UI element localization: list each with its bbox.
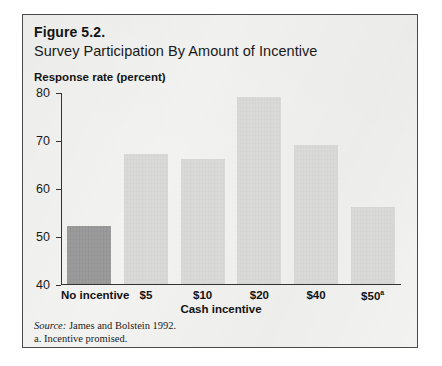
figure-number: Figure 5.2.: [34, 24, 105, 40]
figure-title: Survey Participation By Amount of Incent…: [34, 43, 317, 59]
x-label--20: $20: [231, 289, 288, 301]
bar-no-incentive: [67, 226, 111, 284]
bar--50: [351, 207, 395, 284]
source-label: Source:: [34, 320, 66, 331]
x-label--10: $10: [174, 289, 231, 301]
bar-fill: [124, 154, 168, 284]
figure-panel: Figure 5.2. Survey Participation By Amou…: [22, 14, 418, 348]
y-tick-label-70: 70: [36, 134, 50, 148]
bar--5: [124, 154, 168, 284]
y-tick-label-60: 60: [36, 182, 50, 196]
y-tick-70: 70: [56, 141, 61, 142]
bar-fill: [181, 159, 225, 284]
footnote-line: a. Incentive promised.: [34, 332, 176, 345]
y-axis-line: [61, 93, 62, 285]
y-tick-label-80: 80: [36, 86, 50, 100]
y-tick-60: 60: [56, 189, 61, 190]
x-axis-title: Cash incentive: [23, 303, 419, 315]
y-tick-80: 80: [56, 93, 61, 94]
x-label--50: $50a: [344, 289, 401, 302]
source-line: Source: James and Bolstein 1992.: [34, 319, 176, 332]
x-label-no-incentive: No incentive: [61, 289, 118, 301]
y-tick-label-40: 40: [36, 278, 50, 292]
y-tick-50: 50: [56, 237, 61, 238]
bar-fill: [294, 145, 338, 284]
bar-fill: [67, 226, 111, 284]
footnote-marker: a: [380, 289, 384, 296]
bar--10: [181, 159, 225, 284]
x-label--5: $5: [118, 289, 175, 301]
y-tick-40: 40: [56, 285, 61, 286]
source-note-block: Source: James and Bolstein 1992. a. Ince…: [34, 319, 176, 346]
bar-fill: [237, 97, 281, 284]
bar-chart-plot-area: 4050607080 No incentive$5$10$20$40$50a: [61, 93, 401, 285]
y-tick-label-50: 50: [36, 230, 50, 244]
bar--20: [237, 97, 281, 284]
y-axis-title: Response rate (percent): [34, 71, 166, 83]
bar--40: [294, 145, 338, 284]
source-citation: James and Bolstein 1992.: [66, 320, 176, 331]
bar-fill: [351, 207, 395, 284]
x-label--40: $40: [288, 289, 345, 301]
